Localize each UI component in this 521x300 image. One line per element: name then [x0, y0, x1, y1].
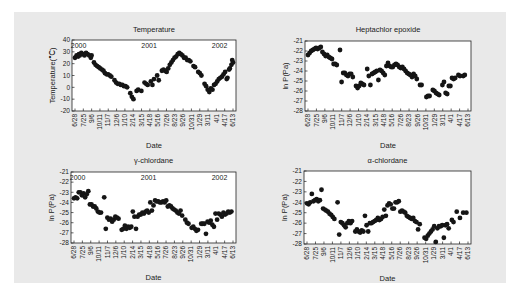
- data-point: [151, 203, 156, 208]
- data-point: [116, 216, 121, 221]
- y-tick-label: -26: [60, 219, 70, 226]
- x-tick-label: 10/11: [96, 114, 103, 130]
- y-tick-label: -22: [293, 178, 303, 185]
- x-tick-label: 11/7: [337, 247, 344, 260]
- x-tick-label: 8/23: [171, 246, 178, 259]
- data-point: [89, 53, 94, 58]
- data-point: [416, 227, 421, 232]
- y-tick-label: -24: [293, 199, 303, 206]
- data-point: [417, 222, 422, 227]
- y-tick-label: -22: [60, 178, 70, 185]
- data-point: [462, 73, 467, 78]
- x-tick-label: 3/15: [372, 114, 379, 127]
- data-point: [448, 84, 453, 89]
- data-point: [396, 199, 401, 204]
- x-tick-label: 3/15: [138, 114, 145, 127]
- chart-title: α-chlordane: [368, 156, 408, 165]
- x-tick-label: 2/14: [129, 246, 136, 259]
- x-tick-label: 3/15: [371, 247, 378, 260]
- data-point: [441, 235, 446, 240]
- data-point: [178, 208, 183, 213]
- x-tick-label: 4/1: [213, 114, 220, 123]
- x-tick-label: 12/6: [113, 114, 120, 127]
- data-point: [383, 213, 388, 218]
- x-axis-label: Date: [146, 273, 162, 282]
- x-tick-label: 5/16: [154, 246, 161, 259]
- chart-alpha-chlordane: α-chlordane-21-22-23-24-25-26-27-286/287…: [280, 156, 471, 283]
- data-point: [130, 209, 135, 214]
- data-point: [437, 93, 442, 98]
- x-tick-label: 2/14: [363, 247, 370, 260]
- y-tick-label: -20: [61, 107, 71, 114]
- data-point: [188, 59, 193, 64]
- plot-area: [305, 41, 471, 111]
- year-annotation: 2001: [141, 42, 157, 49]
- chart-heptachlor-epoxide: Heptachlor epoxide-21-22-23-24-25-26-27-…: [281, 25, 471, 150]
- y-tick-label: -26: [294, 87, 304, 94]
- x-tick-label: 1/29: [431, 114, 438, 127]
- x-tick-label: 2/14: [129, 114, 136, 127]
- x-tick-label: 9/6: [320, 247, 327, 256]
- y-tick-label: -27: [60, 229, 70, 236]
- data-point: [134, 226, 139, 231]
- data-point: [319, 187, 324, 192]
- x-tick-label: 6/28: [303, 247, 310, 260]
- data-point: [231, 60, 236, 65]
- x-tick-label: 9/26: [414, 114, 421, 127]
- x-tick-label: 6/28: [70, 246, 77, 259]
- x-tick-label: 9/26: [413, 247, 420, 260]
- plot-area: [72, 40, 236, 111]
- data-point: [338, 48, 343, 53]
- y-tick-label: -23: [60, 189, 70, 196]
- data-point: [75, 196, 80, 201]
- y-axis-label: Temperature(℃): [48, 47, 57, 104]
- y-tick-label: 20: [63, 60, 71, 67]
- data-point: [365, 67, 370, 72]
- x-tick-label: 4/17: [221, 114, 228, 127]
- y-axis-label: ln P(Pa): [47, 193, 56, 221]
- data-point: [350, 75, 355, 80]
- x-tick-label: 12/6: [346, 114, 353, 127]
- y-tick-label: -25: [60, 209, 70, 216]
- y-tick-label: -27: [293, 230, 303, 237]
- y-tick-label: -25: [293, 209, 303, 216]
- data-point: [155, 73, 160, 78]
- x-tick-label: 3/11: [204, 114, 211, 127]
- y-tick-label: -28: [294, 107, 304, 114]
- data-point: [361, 229, 366, 234]
- x-tick-label: 9/6: [321, 114, 328, 123]
- data-point: [215, 217, 220, 222]
- x-tick-label: 7/25: [80, 114, 87, 127]
- x-tick-label: 10/11: [329, 114, 336, 130]
- data-point: [454, 209, 459, 214]
- data-point: [464, 210, 469, 215]
- data-point: [458, 216, 463, 221]
- x-tick-label: 4/1: [212, 246, 219, 255]
- data-point: [427, 94, 432, 99]
- data-point: [193, 65, 198, 70]
- x-tick-label: 9/26: [179, 246, 186, 259]
- x-tick-label: 4/17: [456, 247, 463, 260]
- x-tick-label: 4/1: [447, 114, 454, 123]
- data-point: [388, 202, 393, 207]
- y-axis-label: ln P(Pa): [280, 193, 289, 221]
- y-tick-label: -21: [294, 37, 304, 44]
- x-tick-label: 10/31: [188, 114, 195, 131]
- data-point: [156, 78, 161, 83]
- data-point: [446, 226, 451, 231]
- data-point: [339, 80, 344, 85]
- data-point: [150, 83, 155, 88]
- x-tick-label: 1/10: [355, 114, 362, 127]
- x-tick-label: 10/11: [95, 246, 102, 262]
- x-tick-label: 9/6: [87, 246, 94, 255]
- x-tick-label: 4/18: [146, 246, 153, 259]
- x-tick-label: 12/6: [346, 247, 353, 260]
- year-annotation: 2001: [141, 174, 157, 181]
- x-tick-label: 6/28: [304, 114, 311, 127]
- data-point: [210, 87, 215, 92]
- data-point: [382, 73, 387, 78]
- x-tick-label: 4/17: [456, 114, 463, 127]
- y-tick-label: 30: [63, 48, 71, 55]
- y-tick-label: -25: [294, 77, 304, 84]
- data-point: [363, 213, 368, 218]
